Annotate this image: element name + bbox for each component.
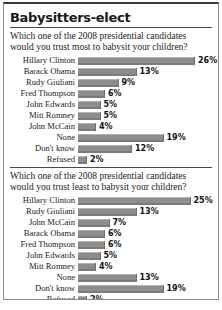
chart-row: Don't know19% (10, 283, 212, 294)
chart-row-label: None (10, 273, 78, 282)
chart-bar (78, 285, 164, 293)
chart-bar (78, 68, 137, 76)
chart-row: Refused2% (10, 294, 212, 300)
chart-bar-wrap: 6% (78, 239, 212, 250)
chart-row-label: Hillary Clinton (10, 196, 78, 205)
chart-row: Rudy Giuliani9% (10, 77, 212, 88)
chart-row-label: Fred Thompson (10, 240, 78, 249)
chart-row-label: Rudy Giuliani (10, 207, 78, 216)
chart-2-question: Which one of the 2008 presidential candi… (10, 171, 212, 192)
chart-row-label: John Edwards (10, 251, 78, 260)
chart-bar-wrap: 19% (78, 283, 212, 294)
chart-row-label: Don't know (10, 144, 78, 153)
chart-bar (78, 101, 101, 109)
chart-bar-value: 13% (140, 207, 159, 216)
chart-row: Hillary Clinton25% (10, 195, 212, 206)
chart-row: None13% (10, 272, 212, 283)
chart-row-label: Rudy Giuliani (10, 78, 78, 87)
chart-bar-wrap: 4% (78, 121, 212, 132)
chart-bar-value: 19% (167, 284, 186, 293)
chart-bar-wrap: 5% (78, 99, 212, 110)
chart-bar-wrap: 26% (78, 55, 217, 66)
chart-row: John McCain7% (10, 217, 212, 228)
chart-bar (78, 241, 105, 249)
page-title: Babysitters-elect (10, 10, 212, 25)
chart-row-label: Don't know (10, 284, 78, 293)
chart-bar-value: 6% (108, 240, 122, 249)
chart-bar-value: 2% (90, 155, 104, 164)
chart-bar (78, 79, 119, 87)
chart-bar (78, 134, 164, 142)
chart-row-label: John Edwards (10, 100, 78, 109)
chart-bar-value: 7% (113, 218, 127, 227)
chart-bar-value: 5% (104, 251, 118, 260)
chart-row: Barack Obama13% (10, 66, 212, 77)
chart-bar-value: 4% (99, 262, 113, 271)
chart-bar (78, 112, 101, 120)
chart-bar (78, 296, 87, 301)
chart-bar-value: 25% (194, 196, 213, 205)
chart-bar-value: 19% (167, 133, 186, 142)
chart-bar-wrap: 5% (78, 110, 212, 121)
chart-bar-wrap: 6% (78, 228, 212, 239)
title-divider (10, 27, 212, 28)
chart-bar (78, 208, 137, 216)
chart-bar-value: 4% (99, 122, 113, 131)
chart-bar (78, 57, 195, 65)
chart-bar (78, 197, 191, 205)
chart-row-label: John McCain (10, 122, 78, 131)
chart-bar (78, 219, 110, 227)
chart-row: Mitt Romney4% (10, 261, 212, 272)
chart-row: John Edwards5% (10, 250, 212, 261)
chart-row-label: Refused (10, 295, 78, 300)
chart-row-label: John McCain (10, 218, 78, 227)
chart-row-label: Barack Obama (10, 67, 78, 76)
chart-bar-value: 2% (90, 295, 104, 300)
chart-bar (78, 274, 137, 282)
chart-bar (78, 145, 132, 153)
chart-bar-value: 9% (122, 78, 136, 87)
chart-row: Barack Obama6% (10, 228, 212, 239)
chart-row-label: Barack Obama (10, 229, 78, 238)
chart-bar-wrap: 12% (78, 143, 212, 154)
chart-row: Hillary Clinton26% (10, 55, 212, 66)
section-divider (10, 167, 212, 168)
chart-bar-wrap: 5% (78, 250, 212, 261)
chart-bar-value: 13% (140, 273, 159, 282)
chart-bar (78, 230, 105, 238)
infographic-root: Babysitters-elect Which one of the 2008 … (0, 0, 222, 310)
chart-row: Fred Thompson6% (10, 239, 212, 250)
chart-row: Rudy Giuliani13% (10, 206, 212, 217)
chart-bar-wrap: 13% (78, 66, 212, 77)
chart-2-bars: Hillary Clinton25%Rudy Giuliani13%John M… (10, 195, 212, 300)
chart-bar-value: 5% (104, 100, 118, 109)
chart-bar (78, 156, 87, 164)
infographic-body: Babysitters-elect Which one of the 2008 … (4, 4, 218, 300)
chart-bar-wrap: 9% (78, 77, 212, 88)
chart-row: Refused2% (10, 154, 212, 165)
chart-bar-value: 6% (108, 89, 122, 98)
chart-bar-wrap: 13% (78, 272, 212, 283)
chart-bar-wrap: 2% (78, 294, 212, 300)
chart-row: Don't know12% (10, 143, 212, 154)
chart-1-question: Which one of the 2008 presidential candi… (10, 31, 212, 52)
chart-bar-value: 13% (140, 67, 159, 76)
chart-bar-wrap: 7% (78, 217, 212, 228)
chart-row-label: None (10, 133, 78, 142)
chart-row: Mitt Romney5% (10, 110, 212, 121)
chart-row-label: Hillary Clinton (10, 56, 78, 65)
chart-row-label: Mitt Romney (10, 111, 78, 120)
chart-row-label: Fred Thompson (10, 89, 78, 98)
chart-row: None19% (10, 132, 212, 143)
chart-bar-value: 12% (135, 144, 154, 153)
chart-bar-value: 5% (104, 111, 118, 120)
chart-row: John Edwards5% (10, 99, 212, 110)
chart-bar-wrap: 4% (78, 261, 212, 272)
chart-row: John McCain4% (10, 121, 212, 132)
chart-bar-value: 26% (198, 56, 217, 65)
chart-bar (78, 263, 96, 271)
chart-bar-wrap: 6% (78, 88, 212, 99)
chart-bar-wrap: 2% (78, 154, 212, 165)
chart-row-label: Refused (10, 155, 78, 164)
chart-bar-wrap: 25% (78, 195, 213, 206)
